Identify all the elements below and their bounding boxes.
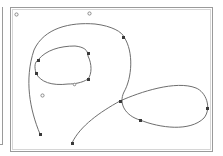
anchor-node[interactable] — [119, 100, 122, 103]
curve-segment[interactable] — [35, 46, 91, 85]
control-handle[interactable] — [41, 94, 44, 97]
curve-segment[interactable] — [72, 101, 120, 143]
anchor-node[interactable] — [87, 52, 90, 55]
anchor-node[interactable] — [35, 72, 38, 75]
anchor-node[interactable] — [206, 107, 209, 110]
anchor-node[interactable] — [37, 59, 40, 62]
anchor-node[interactable] — [139, 119, 142, 122]
anchor-node[interactable] — [122, 36, 125, 39]
anchor-node[interactable] — [39, 133, 42, 136]
curve-segment[interactable] — [120, 37, 208, 127]
curve-segment[interactable] — [29, 24, 124, 134]
anchor-node[interactable] — [71, 142, 74, 145]
control-handle[interactable] — [15, 13, 18, 16]
control-handle[interactable] — [73, 83, 76, 86]
control-handle[interactable] — [88, 12, 91, 15]
anchor-node[interactable] — [87, 78, 90, 81]
curve-layer[interactable] — [0, 0, 223, 156]
